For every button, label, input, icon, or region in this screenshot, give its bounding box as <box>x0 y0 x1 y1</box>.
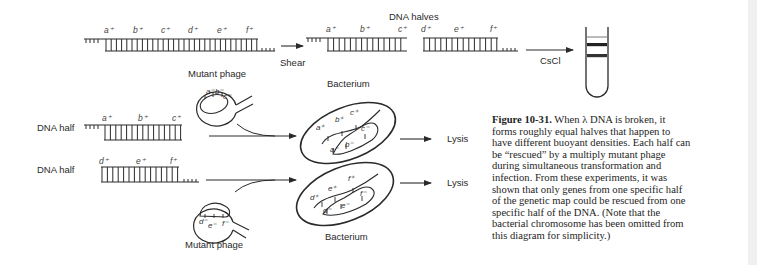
phage-merge-curve <box>235 180 275 192</box>
caption-line: specific half of the DNA. (Note that the <box>492 207 742 219</box>
bacterium-icon <box>292 90 404 176</box>
gene-label: a⁺ <box>102 113 113 123</box>
gene-label: a⁺ <box>104 25 115 35</box>
full-dna-gene-labels: a⁺ b⁺ c⁺ d⁺ e⁺ f⁺ <box>104 25 254 35</box>
mutant-phage-label-1: Mutant phage <box>188 68 246 79</box>
gene-label: e⁺ <box>136 156 147 166</box>
gene-label: f⁺ <box>348 174 355 183</box>
page-edge <box>748 0 757 265</box>
cscl-label: CsCl <box>540 55 561 66</box>
row-label-dna-half-1: DNA half <box>37 122 75 133</box>
gene-label: b⁺ <box>360 24 371 34</box>
gene-label: f⁻ <box>360 189 367 198</box>
dna-half-abc <box>84 125 182 140</box>
shear-label: Shear <box>280 57 305 68</box>
gene-label: d⁺ <box>421 24 432 34</box>
gene-label: d⁺ <box>99 156 110 166</box>
gene-label: e⁺ <box>328 184 337 193</box>
gene-label: f⁺ <box>170 156 178 166</box>
lysis-label-1: Lysis <box>447 133 469 144</box>
gene-label: b⁺ <box>138 113 149 123</box>
gene-label: c⁺ <box>398 24 408 34</box>
caption-line: this diagram for simplicity.) <box>492 230 742 242</box>
gene-label: e⁺ <box>217 25 228 35</box>
figure-caption: Figure 10-31. When λ DNA is broken, it f… <box>492 114 742 242</box>
gene-label: c⁻ <box>223 92 232 101</box>
gene-label: c⁺ <box>350 108 359 117</box>
dna-right-half <box>423 38 518 51</box>
centrifuge-tube-icon <box>586 27 608 97</box>
gene-label: d⁻ <box>323 206 332 215</box>
bacterium-label-1: Bacterium <box>327 78 370 89</box>
caption-line: be “rescued” by a multiply mutant phage <box>492 149 742 161</box>
gene-label: e⁺ <box>454 24 465 34</box>
bacterium-icon <box>288 150 403 238</box>
caption-line: of the genetic map could be rescued from… <box>492 195 742 207</box>
row-label-dna-half-2: DNA half <box>37 164 75 175</box>
gene-label: e⁻ <box>208 221 217 230</box>
caption-line: shown that only genes from one specific … <box>492 184 742 196</box>
gene-label: c⁺ <box>161 25 171 35</box>
phage-merge-curve <box>237 124 275 136</box>
gene-label: e⁻ <box>341 201 350 210</box>
gene-label: f⁺ <box>490 24 498 34</box>
gene-label: c⁺ <box>172 113 182 123</box>
caption-line: have different buoyant densities. Each h… <box>492 137 742 149</box>
figure-number: Figure 10-31. <box>492 114 552 125</box>
caption-line: infection. From these experiments, it wa… <box>492 172 742 184</box>
gene-label: d⁺ <box>310 193 319 202</box>
caption-line: bacterial chromosome has been omitted fr… <box>492 218 742 230</box>
caption-line: during simultaneous transformation and <box>492 160 742 172</box>
gene-label: a⁺ <box>326 24 337 34</box>
mutant-phage-label-2: Mutant phage <box>185 239 243 250</box>
dna-halves-title: DNA halves <box>389 11 439 22</box>
caption-line: Figure 10-31. When λ DNA is broken, it <box>492 114 742 126</box>
gene-label: c⁻ <box>361 124 370 133</box>
gene-label: f⁻ <box>222 219 229 228</box>
lysis-label-2: Lysis <box>447 177 469 188</box>
bacterium-label-2: Bacterium <box>325 231 368 242</box>
full-dna-molecule <box>84 39 275 51</box>
density-band <box>587 54 607 57</box>
dna-half-def <box>101 167 199 182</box>
gene-label: a⁺ <box>316 123 325 132</box>
gene-label: a⁻ <box>330 145 339 154</box>
caption-line: forms roughly equal halves that happen t… <box>492 126 742 138</box>
gene-label: b⁺ <box>133 25 144 35</box>
density-band <box>587 43 607 46</box>
dna-left-half <box>306 38 407 51</box>
gene-label: d⁺ <box>188 25 199 35</box>
gene-label: b⁺ <box>335 115 344 124</box>
gene-label: f⁺ <box>246 25 254 35</box>
gene-label: b⁻ <box>345 140 354 149</box>
